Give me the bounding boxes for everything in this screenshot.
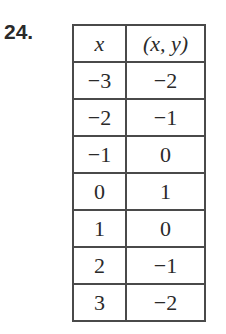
cell-y: −2 xyxy=(126,62,205,99)
table-row: 2−1 xyxy=(73,247,205,284)
cell-y: −2 xyxy=(126,284,205,321)
table-row: −10 xyxy=(73,136,205,173)
cell-y: −1 xyxy=(126,99,205,136)
cell-x: 3 xyxy=(73,284,126,321)
cell-x: −3 xyxy=(73,62,126,99)
cell-x: 0 xyxy=(73,173,126,210)
header-x: x xyxy=(73,25,126,62)
cell-x: 1 xyxy=(73,210,126,247)
problem-number: 24. xyxy=(4,20,33,44)
header-xy: (x, y) xyxy=(126,25,205,62)
cell-y: 1 xyxy=(126,173,205,210)
table-row: 10 xyxy=(73,210,205,247)
cell-x: −2 xyxy=(73,99,126,136)
cell-x: −1 xyxy=(73,136,126,173)
cell-y: 0 xyxy=(126,136,205,173)
values-table: x (x, y) −3−2 −2−1 −10 01 10 2−1 3−2 xyxy=(72,24,206,322)
table-row: −2−1 xyxy=(73,99,205,136)
table-row: 01 xyxy=(73,173,205,210)
cell-y: −1 xyxy=(126,247,205,284)
table-row: −3−2 xyxy=(73,62,205,99)
cell-x: 2 xyxy=(73,247,126,284)
cell-y: 0 xyxy=(126,210,205,247)
table-header-row: x (x, y) xyxy=(73,25,205,62)
table-row: 3−2 xyxy=(73,284,205,321)
